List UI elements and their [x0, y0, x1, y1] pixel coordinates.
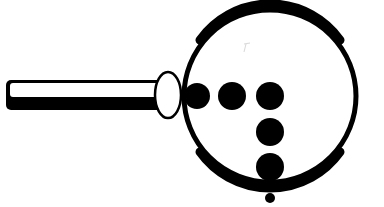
dot-small	[265, 193, 275, 203]
dot-column-1	[256, 118, 284, 146]
dot-stem	[265, 170, 275, 184]
magnifying-glass-illustration	[0, 0, 384, 207]
magnifying-glass-icon	[0, 0, 384, 207]
dot-row-3	[256, 82, 284, 110]
dot-row-1	[184, 83, 210, 109]
dot-row-2	[218, 82, 246, 110]
handle	[6, 80, 164, 110]
ferrule	[155, 72, 181, 118]
